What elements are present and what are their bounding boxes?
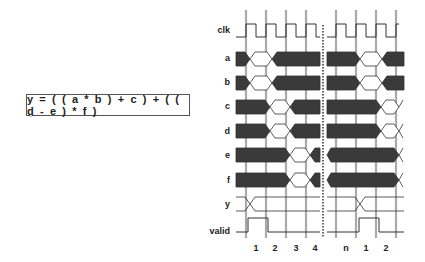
- f-waveform: [236, 173, 403, 187]
- b-waveform: [236, 76, 404, 90]
- a-waveform: [236, 52, 404, 66]
- y-waveform: [236, 197, 404, 211]
- valid-waveform: [236, 218, 404, 232]
- timing-diagram: [0, 0, 425, 262]
- d-waveform: [236, 124, 403, 138]
- clk-waveform: [236, 24, 399, 37]
- e-waveform: [236, 148, 403, 162]
- c-waveform: [236, 100, 403, 114]
